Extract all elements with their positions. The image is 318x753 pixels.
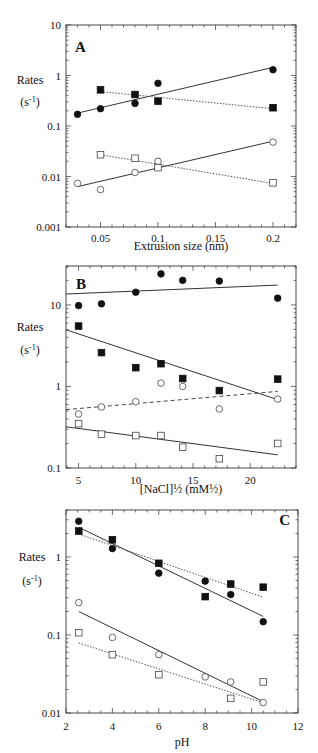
fit-line bbox=[79, 612, 263, 702]
data-point-open-circle bbox=[158, 380, 165, 387]
fit-line bbox=[79, 534, 263, 597]
data-point-filled-square bbox=[97, 87, 104, 94]
data-point-open-circle bbox=[133, 398, 140, 405]
data-point-open-circle bbox=[179, 383, 186, 390]
data-point-open-circle bbox=[216, 406, 223, 413]
data-point-open-square bbox=[179, 444, 186, 451]
data-point-open-square bbox=[75, 629, 82, 636]
y-tick-label: 0.1 bbox=[47, 462, 61, 474]
data-point-open-square bbox=[270, 180, 277, 187]
data-point-open-square bbox=[155, 164, 162, 171]
data-point-open-square bbox=[75, 420, 82, 427]
x-tick-label: 20 bbox=[245, 474, 257, 486]
data-point-open-circle bbox=[156, 651, 163, 658]
y-tick-label: 0.1 bbox=[47, 120, 61, 132]
fit-line bbox=[66, 391, 278, 409]
data-point-filled-circle bbox=[156, 570, 163, 577]
data-point-filled-square bbox=[156, 560, 163, 567]
data-point-filled-circle bbox=[227, 591, 234, 598]
data-point-filled-circle bbox=[133, 289, 140, 296]
y-axis-unit: (s-1) bbox=[22, 574, 41, 589]
y-tick-label: 1 bbox=[56, 380, 62, 392]
x-tick-label: 6 bbox=[156, 720, 162, 732]
x-tick-label: 5 bbox=[76, 474, 82, 486]
data-point-filled-square bbox=[109, 536, 116, 543]
x-tick-label: 2 bbox=[63, 720, 69, 732]
panel-b: 0.11105101520[NaCl]½ (mM½)Rates(s-1)B bbox=[17, 266, 296, 496]
data-point-filled-circle bbox=[75, 518, 82, 525]
data-point-open-square bbox=[274, 440, 281, 447]
panel-label: C bbox=[279, 512, 290, 528]
x-axis-label: Extrusion size (nm) bbox=[134, 239, 229, 253]
data-point-open-circle bbox=[274, 396, 281, 403]
data-point-filled-square bbox=[98, 349, 105, 356]
y-axis-unit: (s-1) bbox=[20, 343, 39, 358]
data-point-filled-square bbox=[75, 323, 82, 330]
data-point-open-square bbox=[227, 695, 234, 702]
data-point-open-circle bbox=[109, 634, 116, 641]
data-point-filled-circle bbox=[75, 302, 82, 309]
data-point-filled-square bbox=[227, 581, 234, 588]
y-tick-label: 1 bbox=[56, 70, 62, 82]
data-point-filled-circle bbox=[155, 80, 162, 87]
fit-line bbox=[79, 643, 263, 703]
data-point-filled-circle bbox=[202, 578, 209, 585]
panel-c: 0.010.1124681012pHRates(s-1)C bbox=[19, 510, 304, 749]
plot-frame bbox=[66, 25, 296, 227]
y-tick-label: 0.01 bbox=[42, 707, 61, 719]
data-point-open-circle bbox=[75, 411, 82, 418]
data-point-filled-square bbox=[75, 528, 82, 535]
panel-label: A bbox=[75, 39, 86, 55]
data-point-filled-square bbox=[216, 387, 223, 394]
data-point-open-square bbox=[133, 432, 140, 439]
fit-line bbox=[101, 92, 274, 109]
data-point-filled-circle bbox=[158, 271, 165, 278]
y-tick-label: 10 bbox=[50, 19, 62, 31]
data-point-open-square bbox=[260, 679, 267, 686]
data-point-open-square bbox=[156, 671, 163, 678]
panel-label: B bbox=[76, 276, 86, 292]
fit-line bbox=[78, 141, 274, 186]
data-point-open-square bbox=[132, 155, 139, 162]
y-tick-label: 1 bbox=[56, 551, 62, 563]
data-point-open-circle bbox=[202, 674, 209, 681]
x-tick-label: 12 bbox=[293, 720, 304, 732]
x-tick-label: 4 bbox=[110, 720, 116, 732]
x-tick-label: 8 bbox=[202, 720, 208, 732]
data-point-open-circle bbox=[270, 139, 277, 146]
data-point-filled-circle bbox=[270, 66, 277, 73]
data-point-filled-square bbox=[155, 98, 162, 105]
data-point-filled-square bbox=[158, 360, 165, 367]
y-axis-label: Rates bbox=[19, 550, 46, 564]
data-point-open-circle bbox=[97, 186, 104, 193]
data-point-open-circle bbox=[155, 158, 162, 165]
data-point-open-square bbox=[216, 455, 223, 462]
data-point-filled-circle bbox=[109, 545, 116, 552]
y-axis-unit: (s-1) bbox=[20, 95, 39, 110]
figure: 0.0010.010.11100.050.10.150.2Extrusion s… bbox=[0, 0, 318, 753]
data-point-filled-circle bbox=[97, 105, 104, 112]
y-axis-label: Rates bbox=[17, 73, 44, 87]
panel-a: 0.0010.010.11100.050.10.150.2Extrusion s… bbox=[17, 19, 296, 253]
data-point-open-circle bbox=[260, 699, 267, 706]
data-point-filled-circle bbox=[216, 278, 223, 285]
data-point-filled-square bbox=[274, 376, 281, 383]
y-tick-label: 0.01 bbox=[42, 171, 61, 183]
data-point-open-square bbox=[98, 431, 105, 438]
data-point-filled-square bbox=[179, 375, 186, 382]
data-point-open-square bbox=[97, 151, 104, 158]
y-tick-label: 10 bbox=[50, 299, 62, 311]
data-point-filled-square bbox=[270, 104, 277, 111]
x-axis-label: [NaCl]½ (mM½) bbox=[140, 482, 222, 496]
y-tick-label: 0.1 bbox=[47, 629, 61, 641]
data-point-filled-square bbox=[132, 91, 139, 98]
fit-line bbox=[66, 330, 278, 400]
data-point-filled-square bbox=[260, 584, 267, 591]
data-point-open-circle bbox=[75, 599, 82, 606]
x-tick-label: 0.05 bbox=[91, 232, 111, 244]
y-tick-label: 0.001 bbox=[36, 221, 61, 233]
data-point-filled-circle bbox=[132, 100, 139, 107]
y-axis-label: Rates bbox=[17, 320, 44, 334]
fit-line bbox=[66, 427, 278, 455]
x-tick-label: 0.2 bbox=[266, 232, 280, 244]
